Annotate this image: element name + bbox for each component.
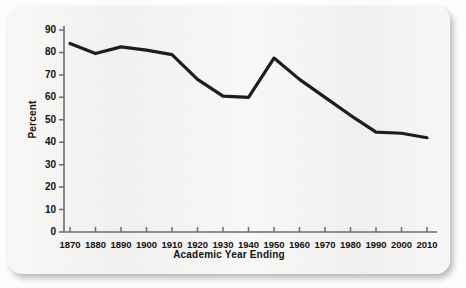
line-chart: Percent Academic Year Ending 01020304050… bbox=[8, 6, 450, 274]
data-series-percent bbox=[70, 43, 427, 137]
chart-card: Percent Academic Year Ending 01020304050… bbox=[8, 6, 450, 274]
chart-canvas bbox=[8, 6, 450, 274]
figure-page: Percent Academic Year Ending 01020304050… bbox=[0, 0, 466, 288]
